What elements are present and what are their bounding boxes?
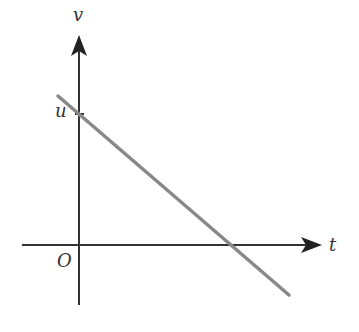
graph-svg: [0, 0, 359, 332]
velocity-line: [58, 96, 289, 295]
v-axis-label: v: [73, 6, 83, 24]
t-axis-label: t: [329, 236, 336, 254]
origin-label: O: [57, 252, 72, 270]
u-label: u: [55, 102, 67, 120]
velocity-time-graph: v t O u: [0, 0, 359, 332]
